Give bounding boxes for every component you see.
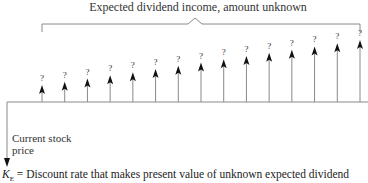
unknown-amount-label: ? [108,63,112,73]
current-price-label-line2: price [12,144,72,156]
unknown-amount-label: ? [199,51,203,61]
caption-symbol: K [2,168,10,180]
unknown-amount-label: ? [358,28,362,38]
unknown-amount-label: ? [222,47,226,57]
current-price-label: Current stock price [12,132,72,156]
unknown-amount-label: ? [40,73,44,83]
bracket [42,18,360,32]
dividend-arrow: ? [130,60,136,102]
unknown-amount-label: ? [63,70,67,80]
down-arrow-icon [4,158,10,167]
unknown-amount-label: ? [290,38,294,48]
unknown-amount-label: ? [244,44,248,54]
caption: KE = Discount rate that makes present va… [2,167,349,183]
dividend-arrow: ? [289,38,295,102]
dividend-arrow: ? [62,70,68,102]
dividend-arrow: ? [266,41,272,102]
dividend-arrow: ? [84,67,90,102]
dividend-arrows: ??????????????? [39,28,363,102]
unknown-amount-label: ? [131,60,135,70]
caption-text: = Discount rate that makes present value… [14,168,349,180]
dividend-arrow: ? [221,47,227,102]
dividend-arrow: ? [198,51,204,103]
dividend-arrow: ? [312,34,318,102]
dividend-arrow: ? [357,28,363,102]
unknown-amount-label: ? [154,57,158,67]
current-price-label-line1: Current stock [12,132,72,144]
dividend-arrow: ? [243,44,249,102]
dividend-arrow: ? [107,63,113,102]
dividend-arrow: ? [39,73,45,102]
dividend-arrow: ? [334,31,340,102]
unknown-amount-label: ? [313,34,317,44]
unknown-amount-label: ? [267,41,271,51]
unknown-amount-label: ? [85,67,89,77]
dividend-arrow: ? [153,57,159,102]
unknown-amount-label: ? [176,54,180,64]
unknown-amount-label: ? [335,31,339,41]
dividend-arrow: ? [175,54,181,102]
